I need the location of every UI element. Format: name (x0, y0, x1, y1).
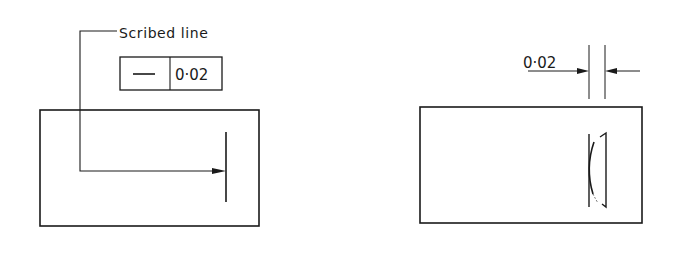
tolerance-value: 0·02 (175, 66, 208, 84)
drawing-canvas: Scribed line 0·02 0·02 (0, 0, 679, 258)
left-figure: Scribed line 0·02 (40, 25, 259, 226)
leader-line (80, 31, 216, 171)
feature-control-frame: 0·02 (120, 57, 222, 90)
actual-scribed-curve (589, 142, 594, 194)
scribed-line-label: Scribed line (119, 25, 209, 41)
dimension-label: 0·02 (523, 54, 556, 72)
dimension-arrow-left-icon (577, 68, 589, 74)
tolerance-zone-bracket (600, 133, 606, 207)
part-outline-right (420, 107, 642, 223)
leader-arrowhead-icon (212, 168, 226, 174)
dimension-arrow-right-icon (605, 68, 617, 74)
right-figure: 0·02 (420, 45, 642, 223)
actual-scribed-curve-tail (593, 194, 598, 203)
